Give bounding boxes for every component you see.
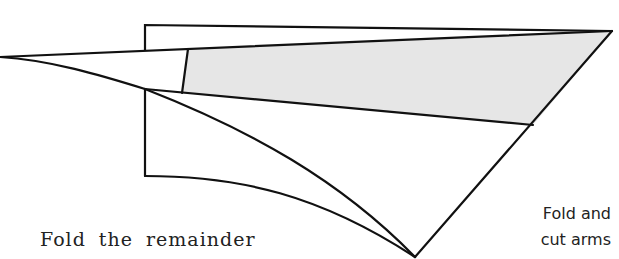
lower-fold-curve: [0, 57, 145, 89]
instruction-right-line1: Fold and: [511, 201, 611, 227]
instruction-right-line2: cut arms: [511, 227, 611, 253]
shaded-flap: [182, 31, 612, 125]
instruction-fold-cut-arms: Fold and cut arms: [511, 201, 611, 253]
instruction-fold-remainder: Fold the remainder: [40, 228, 256, 250]
